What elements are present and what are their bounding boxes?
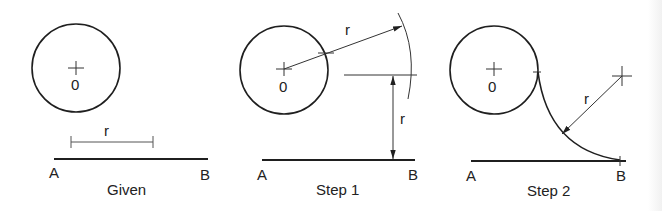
point-a-label: A	[49, 164, 59, 181]
radius-label: r	[584, 90, 589, 107]
panel-given: 0 r A B Given	[32, 24, 210, 198]
swing-arc	[398, 13, 411, 99]
point-a-label: A	[257, 166, 267, 183]
caption-given: Given	[107, 181, 146, 198]
caption-step1: Step 1	[316, 181, 359, 198]
center-mark-icon	[68, 61, 84, 75]
point-b-label: B	[200, 166, 210, 183]
radius-extended-arrow	[284, 26, 402, 69]
point-b-label: B	[616, 167, 626, 184]
center-label: 0	[488, 78, 496, 95]
radius-label-offset: r	[400, 110, 405, 127]
center-mark-icon	[486, 62, 502, 76]
point-b-label: B	[408, 166, 418, 183]
tangent-arc-diagram: 0 r A B Given 0 r r A B Step	[0, 0, 662, 211]
radius-label: r	[104, 122, 109, 139]
panel-step1: 0 r r A B Step 1	[240, 13, 418, 198]
caption-step2: Step 2	[527, 182, 570, 199]
center-label: 0	[71, 76, 79, 93]
panel-step2: 0 r A B Step 2	[450, 26, 632, 199]
radius-dimension	[71, 136, 153, 148]
radius-label-arc: r	[345, 21, 350, 38]
tangent-arc	[538, 72, 620, 160]
center-label: 0	[279, 78, 287, 95]
point-a-label: A	[466, 167, 476, 184]
arc-radius-arrow	[562, 76, 622, 134]
